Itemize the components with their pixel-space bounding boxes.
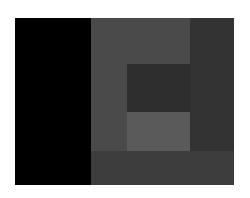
- black-column: [15, 18, 91, 185]
- light-inner-square: [127, 112, 190, 151]
- dark-inner-square: [127, 64, 190, 112]
- dark-right-column: [190, 18, 234, 151]
- bottom-band: [91, 151, 234, 185]
